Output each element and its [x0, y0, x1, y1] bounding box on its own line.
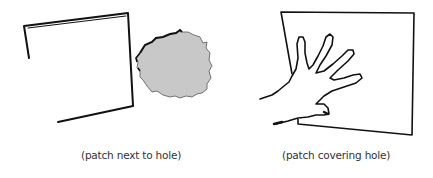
caption-patch-covering-hole: (patch covering hole) [282, 149, 390, 161]
panel-patch-covering-hole: (patch covering hole) [220, 0, 433, 178]
caption-patch-next-to-hole: (patch next to hole) [81, 149, 181, 161]
panel-patch-next-to-hole: (patch next to hole) [0, 0, 220, 178]
patch-icon [24, 13, 133, 122]
hole-icon [136, 30, 212, 98]
hand-icon [260, 34, 362, 124]
